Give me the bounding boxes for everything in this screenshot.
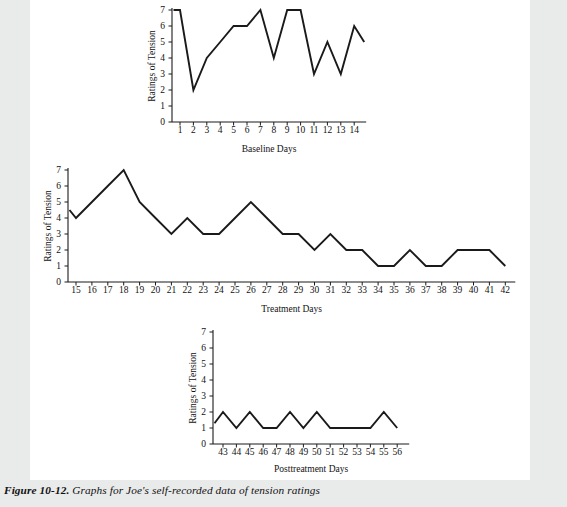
y-tick-label-treatment-0: 0 [56,277,61,287]
y-tick-label-posttreatment-4: 4 [201,375,206,385]
x-tick-label-baseline-4: 4 [218,125,223,135]
x-tick-label-treatment-21: 21 [167,285,177,295]
x-tick-label-posttreatment-49: 49 [299,447,309,457]
x-tick-label-baseline-13: 13 [336,125,346,135]
x-tick-label-posttreatment-53: 53 [352,447,362,457]
y-tick-label-treatment-4: 4 [56,213,61,223]
x-tick-label-treatment-22: 22 [183,285,193,295]
x-tick-label-baseline-5: 5 [231,125,236,135]
x-tick-label-posttreatment-43: 43 [218,447,228,457]
x-tick-label-posttreatment-56: 56 [392,447,402,457]
y-tick-label-posttreatment-5: 5 [201,359,206,369]
x-tick-label-baseline-11: 11 [309,125,318,135]
x-tick-label-treatment-29: 29 [294,285,304,295]
x-tick-label-treatment-33: 33 [357,285,367,295]
x-tick-label-posttreatment-44: 44 [232,447,242,457]
x-tick-label-treatment-40: 40 [469,285,479,295]
x-axis-title-treatment: Treatment Days [261,304,322,314]
y-tick-label-baseline-4: 4 [160,53,165,63]
x-tick-label-treatment-41: 41 [485,285,495,295]
x-tick-label-baseline-2: 2 [191,125,196,135]
x-tick-label-treatment-18: 18 [119,285,129,295]
x-tick-label-posttreatment-45: 45 [245,447,255,457]
y-tick-label-baseline-2: 2 [160,85,165,95]
x-tick-label-baseline-10: 10 [296,125,306,135]
tension-ratings-figure: 012345671234567891011121314Baseline Days… [30,0,530,480]
x-tick-label-posttreatment-47: 47 [272,447,282,457]
x-tick-label-treatment-16: 16 [87,285,97,295]
y-tick-label-baseline-1: 1 [160,101,165,111]
x-tick-label-baseline-3: 3 [204,125,209,135]
x-tick-label-baseline-7: 7 [258,125,263,135]
figure-graphs: 012345671234567891011121314Baseline Days… [30,0,530,480]
x-tick-label-treatment-28: 28 [278,285,288,295]
y-tick-label-posttreatment-1: 1 [201,423,206,433]
x-tick-label-treatment-24: 24 [214,285,224,295]
y-tick-label-posttreatment-2: 2 [201,407,206,417]
x-tick-label-treatment-42: 42 [501,285,511,295]
x-tick-label-treatment-34: 34 [373,285,383,295]
y-tick-label-posttreatment-0: 0 [201,439,206,449]
y-tick-label-treatment-2: 2 [56,245,61,255]
x-axis-title-baseline: Baseline Days [242,144,297,154]
data-line-treatment [70,170,506,266]
x-tick-label-treatment-20: 20 [151,285,161,295]
x-tick-label-treatment-36: 36 [405,285,415,295]
y-tick-label-treatment-6: 6 [56,181,61,191]
x-tick-label-treatment-39: 39 [453,285,463,295]
y-tick-label-treatment-7: 7 [56,165,61,175]
y-tick-label-treatment-5: 5 [56,197,61,207]
y-tick-label-posttreatment-6: 6 [201,343,206,353]
x-tick-label-treatment-17: 17 [103,285,113,295]
chart-posttreatment: 012345674344454647484950515253545556Post… [188,327,409,474]
y-tick-label-baseline-7: 7 [160,5,165,15]
x-tick-label-treatment-15: 15 [71,285,81,295]
x-tick-label-treatment-30: 30 [310,285,320,295]
figure-caption: Figure 10-12. Graphs for Joe's self-reco… [4,484,560,496]
y-axis-title-posttreatment: Ratings of Tension [188,352,198,424]
y-tick-label-posttreatment-7: 7 [201,327,206,337]
y-tick-label-baseline-5: 5 [160,37,165,47]
x-tick-label-baseline-6: 6 [245,125,250,135]
x-tick-label-treatment-27: 27 [262,285,272,295]
data-line-baseline [174,10,365,90]
x-tick-label-baseline-14: 14 [349,125,359,135]
x-tick-label-treatment-35: 35 [389,285,399,295]
data-line-posttreatment [215,412,398,428]
x-axis-title-posttreatment: Posttreatment Days [274,464,348,474]
x-tick-label-baseline-9: 9 [285,125,290,135]
x-tick-label-treatment-19: 19 [135,285,145,295]
x-tick-label-treatment-38: 38 [437,285,447,295]
y-tick-label-posttreatment-3: 3 [201,391,206,401]
y-axis-title-baseline: Ratings of Tension [147,30,157,102]
x-tick-label-posttreatment-55: 55 [379,447,389,457]
x-tick-label-posttreatment-46: 46 [258,447,268,457]
figure-number: Figure 10-12. [4,484,69,496]
y-tick-label-baseline-3: 3 [160,69,165,79]
x-tick-label-baseline-1: 1 [178,125,183,135]
x-tick-label-treatment-37: 37 [421,285,431,295]
chart-treatment: 0123456715161718192021222324252627282930… [43,165,515,314]
figure-caption-text: Graphs for Joe's self-recorded data of t… [72,484,320,496]
y-axis-title-treatment: Ratings of Tension [43,190,53,262]
chart-baseline: 012345671234567891011121314Baseline Days… [147,5,366,154]
x-tick-label-treatment-32: 32 [342,285,352,295]
x-tick-label-posttreatment-51: 51 [325,447,335,457]
y-tick-label-baseline-0: 0 [160,117,165,127]
x-tick-label-treatment-23: 23 [198,285,208,295]
x-tick-label-posttreatment-50: 50 [312,447,322,457]
x-tick-label-posttreatment-52: 52 [339,447,349,457]
x-tick-label-posttreatment-48: 48 [285,447,295,457]
y-tick-label-baseline-6: 6 [160,21,165,31]
x-tick-label-treatment-25: 25 [230,285,240,295]
x-tick-label-posttreatment-54: 54 [366,447,376,457]
x-tick-label-treatment-31: 31 [326,285,336,295]
x-tick-label-baseline-8: 8 [271,125,276,135]
y-tick-label-treatment-1: 1 [56,261,61,271]
x-tick-label-baseline-12: 12 [323,125,333,135]
x-tick-label-treatment-26: 26 [246,285,256,295]
page-canvas: 012345671234567891011121314Baseline Days… [30,0,530,480]
y-tick-label-treatment-3: 3 [56,229,61,239]
